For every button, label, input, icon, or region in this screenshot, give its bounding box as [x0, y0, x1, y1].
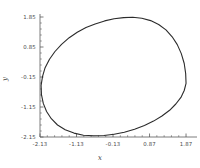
axis-lines	[40, 14, 197, 137]
limit-cycle-curve	[41, 17, 186, 136]
x-tick-label: -1.13	[69, 141, 84, 147]
x-axis-title: x	[98, 154, 102, 162]
data-series-group	[41, 17, 186, 136]
plot-canvas	[0, 0, 200, 168]
y-tick-label: 1.85	[10, 14, 36, 20]
y-axis-title: y	[1, 77, 9, 81]
x-tick-label: -0.13	[106, 141, 121, 147]
chart-figure: -2.13-1.13-0.130.871.87 -2.15-1.15-0.150…	[0, 0, 200, 168]
y-tick-label: -1.15	[10, 104, 36, 110]
y-tick-label: -0.15	[10, 74, 36, 80]
x-tick-label: 1.87	[180, 141, 193, 147]
x-tick-label: 0.87	[143, 141, 156, 147]
x-tick-label: -2.13	[33, 141, 48, 147]
y-tick-label: 0.85	[10, 44, 36, 50]
y-tick-label: -2.15	[10, 134, 36, 140]
